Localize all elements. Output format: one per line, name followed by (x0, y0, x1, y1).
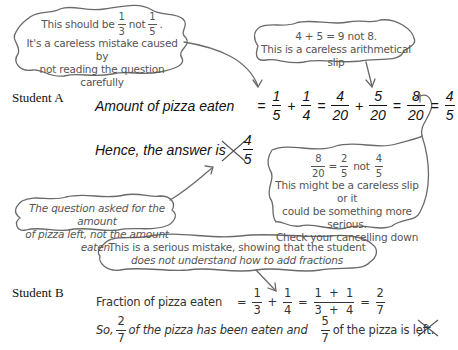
note-text: not reading the question carefully (22, 63, 182, 89)
note-text: It's a careless mistake caused by (22, 37, 182, 63)
equals-sign: = (360, 295, 369, 309)
note-text: This might be a careless slip or it (272, 179, 422, 205)
fraction: 27 (116, 316, 125, 344)
fraction: 25 (340, 154, 348, 179)
fraction: 1 + 13 + 4 (314, 288, 355, 316)
fraction: 45 (375, 154, 383, 179)
fraction: 520 (369, 89, 387, 122)
fraction: 820 (407, 89, 425, 122)
note-text: could be something more serious. (272, 205, 422, 231)
working-text: So, (96, 323, 113, 337)
equals-sign: = (237, 295, 246, 309)
note-5-serious-mistake: This is a serious mistake, showing that … (98, 241, 376, 267)
working-text: Fraction of pizza eaten (96, 295, 222, 309)
note-text: does not understand how to add fractions (98, 254, 376, 267)
fraction: 14 (283, 288, 292, 316)
student-a-working-line1: Amount of pizza eaten = 15 + 14 = 420 + … (95, 89, 458, 122)
equals-sign: = (431, 98, 439, 114)
note-1-careless-reading: This should be 13 not 15 . It's a carele… (22, 12, 182, 89)
equals-sign: = (328, 160, 337, 173)
fraction: 15 (272, 89, 282, 122)
fraction: 14 (301, 89, 311, 122)
fraction: 57 (321, 316, 330, 344)
fraction: 13 (118, 12, 126, 37)
equals-sign: = (298, 295, 307, 309)
equals-sign: = (317, 98, 325, 114)
fraction: 45 (445, 89, 455, 122)
working-text: of the pizza has been eaten and (129, 323, 308, 337)
note-text: This should be (41, 18, 114, 31)
fraction: 820 (311, 154, 325, 179)
plus-sign: + (355, 98, 363, 114)
equals-sign: = (393, 98, 401, 114)
note-text: not (129, 18, 146, 31)
fraction: 15 (148, 12, 156, 37)
answer-fraction: 45 (243, 133, 253, 166)
working-text: Hence, the answer is (95, 142, 226, 158)
note-text: This is a careless arithmetical slip (258, 43, 414, 69)
student-b-working-line2: So, 27 of the pizza has been eaten and 5… (96, 316, 434, 344)
arrow-note1 (184, 42, 258, 86)
fraction: 13 (252, 288, 261, 316)
student-a-label: Student A (12, 90, 64, 106)
note-text: not (353, 160, 370, 173)
arrow-note3 (170, 168, 212, 200)
student-a-working-line2: Hence, the answer is 45 (95, 133, 256, 166)
student-b-working-line1: Fraction of pizza eaten = 13 + 14 = 1 + … (96, 288, 388, 316)
note-4-cancelling: 820 = 25 not 45 This might be a careless… (272, 154, 422, 244)
working-text: Amount of pizza eaten (95, 98, 234, 114)
plus-sign: + (287, 98, 295, 114)
working-text: of the pizza is left. (333, 323, 434, 337)
equals-sign: = (257, 98, 265, 114)
plus-sign: + (268, 295, 277, 309)
note-text: . (160, 18, 163, 31)
fraction: 420 (331, 89, 349, 122)
note-text: 4 + 5 = 9 not 8. (258, 30, 414, 43)
note-2-arithmetic-slip: 4 + 5 = 9 not 8. This is a careless arit… (258, 30, 414, 69)
note-text: This is a serious mistake, showing that … (98, 241, 376, 254)
fraction: 27 (376, 288, 385, 316)
student-b-label: Student B (12, 285, 64, 301)
note-text: The question asked for the amount (18, 202, 176, 228)
